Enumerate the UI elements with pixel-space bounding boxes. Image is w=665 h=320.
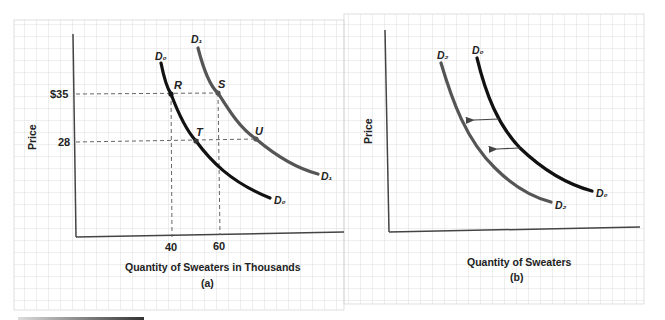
label-d0-end-a: D₀ [274, 194, 286, 206]
label-r: R [174, 79, 182, 91]
label-d0-end-b: D₀ [596, 187, 608, 199]
x-tick-60: 60 [213, 240, 225, 252]
label-d2-top-b: D₂ [437, 49, 449, 61]
point-u [253, 136, 258, 141]
caption-a: (a) [201, 277, 214, 289]
label-d2-end-b: D₂ [555, 199, 567, 211]
label-u: U [255, 125, 264, 137]
label-d0-top-a: D₀ [155, 50, 167, 62]
label-d1-top-a: D₁ [191, 33, 203, 45]
demand-diagrams: R S T U D₀ D₁ D₁ D₀ $35 28 40 60 Price Q… [0, 0, 665, 320]
point-t [193, 138, 198, 143]
x-axis-label-b: Quantity of Sweaters [467, 256, 572, 268]
y-tick-28: 28 [58, 136, 70, 148]
y-axis-label-a: Price [26, 124, 38, 150]
label-d0-top-b: D₀ [472, 44, 484, 56]
caption-b: (b) [510, 271, 523, 283]
x-tick-40: 40 [165, 241, 177, 253]
label-s: S [218, 78, 226, 90]
point-s [215, 90, 220, 95]
y-tick-35: $35 [50, 88, 68, 100]
x-axis-label-a: Quantity of Sweaters in Thousands [125, 261, 301, 273]
point-r [168, 91, 173, 96]
label-d1-end-a: D₁ [321, 170, 333, 182]
y-axis-label-b: Price [362, 118, 374, 144]
